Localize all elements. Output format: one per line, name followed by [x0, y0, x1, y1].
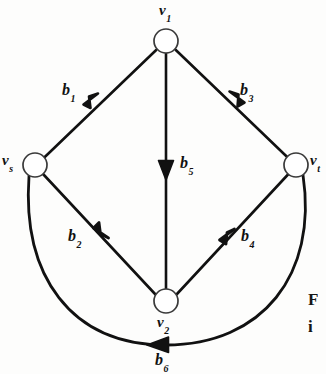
- edge-label-b5-sub: 5: [189, 166, 194, 177]
- edge-label-b6-base: b: [155, 351, 163, 368]
- edge-label-b4-base: b: [241, 227, 249, 244]
- edge-b1-line: [45, 50, 156, 157]
- edge-label-b4: b4: [241, 228, 254, 247]
- node-label-vt: vt: [310, 152, 319, 171]
- node-v1[interactable]: [154, 29, 178, 53]
- edge-label-b2-base: b: [68, 227, 76, 244]
- edge-b1-arrowhead: [84, 94, 99, 109]
- edge-label-b4-sub: 4: [250, 239, 255, 250]
- edge-label-b3-sub: 3: [249, 93, 254, 104]
- node-label-v2: v2: [157, 314, 169, 333]
- node-vt[interactable]: [284, 153, 308, 177]
- node-label-v1-base: v: [159, 2, 166, 18]
- node-label-vs: vs: [2, 152, 13, 171]
- edge-b1: [45, 50, 156, 157]
- node-label-v1-sub: 1: [166, 13, 171, 24]
- edge-label-b1: b1: [62, 82, 75, 101]
- edge-label-b1-sub: 1: [71, 93, 76, 104]
- edge-label-b3: b3: [240, 82, 253, 101]
- node-v2[interactable]: [154, 289, 178, 313]
- node-label-vt-base: v: [310, 152, 317, 168]
- node-label-v2-sub: 2: [164, 325, 169, 336]
- node-label-vt-sub: t: [317, 163, 320, 174]
- edge-label-b5-base: b: [180, 154, 188, 171]
- edge-label-b6-sub: 6: [164, 363, 169, 374]
- edge-label-b1-base: b: [62, 81, 70, 98]
- node-vs[interactable]: [23, 153, 47, 177]
- edge-b4: [177, 175, 289, 295]
- edge-b3-line: [176, 50, 287, 157]
- edge-label-b2-sub: 2: [77, 239, 82, 250]
- edge-label-b6: b6: [155, 352, 168, 371]
- edge-b2: [44, 175, 156, 295]
- edge-b2-arrowhead: [94, 223, 109, 239]
- node-label-v1: v1: [159, 2, 171, 21]
- caption-fragment-i: i: [308, 317, 313, 337]
- edge-b5-arrowhead: [159, 161, 174, 181]
- edge-label-b3-base: b: [240, 81, 248, 98]
- node-label-vs-sub: s: [9, 163, 13, 174]
- edge-label-b5: b5: [180, 155, 193, 174]
- edge-label-b2: b2: [68, 228, 81, 247]
- edge-b3: [176, 50, 287, 157]
- caption-fragment-f: F: [308, 290, 318, 310]
- node-label-v2-base: v: [157, 314, 164, 330]
- figure-canvas: v1 vs vt v2 b1 b2 b3 b4 b5 b6 F i: [0, 0, 326, 374]
- edge-b4-line: [177, 175, 289, 295]
- edge-b4-arrowhead: [220, 229, 235, 244]
- edge-b5: [159, 53, 174, 289]
- node-label-vs-base: v: [2, 152, 9, 168]
